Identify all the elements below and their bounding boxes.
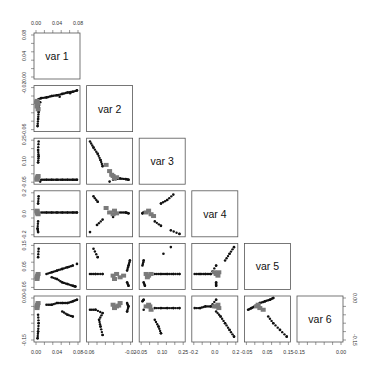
tick-label: 0.00 <box>336 349 346 355</box>
tick-label: -0.05 <box>21 281 27 293</box>
scatter-panel-5-3 <box>192 296 238 342</box>
variable-label: var 2 <box>98 103 122 115</box>
tick-label: -0.05 <box>240 349 252 355</box>
variable-label: var 3 <box>151 155 175 167</box>
tick-label: 0.00 <box>31 20 41 26</box>
tick-label: 0.15 <box>283 349 293 355</box>
scatter-panel-5-0 <box>34 296 80 342</box>
variable-label: var 4 <box>203 208 227 220</box>
left-axis-3: -0.050.100.25 <box>21 135 34 188</box>
diagonal-panel-5: var 5 <box>244 243 290 289</box>
scatter-panel-5-1 <box>87 296 133 342</box>
tick-label: 0.0 <box>21 210 27 217</box>
tick-label: 0.04 <box>21 51 27 61</box>
right-axis-6: -0.150.00 <box>343 293 358 346</box>
tick-label: 0.25 <box>21 135 27 145</box>
variable-label: var 1 <box>45 50 69 62</box>
tick-label: -0.2 <box>21 230 27 239</box>
tick-label: 0.0 <box>211 349 218 355</box>
scatter-panel-5-4 <box>244 296 290 342</box>
left-axis-2: -0.06-0.02 <box>21 82 34 136</box>
scatter-panel-3-2 <box>139 191 185 237</box>
scatter-panel-2-0 <box>34 138 80 184</box>
tick-label: -0.15 <box>21 334 27 346</box>
left-axis-5: -0.050.050.15 <box>21 240 34 293</box>
tick-label: -0.05 <box>21 176 27 188</box>
scatter-panel-3-1 <box>87 191 133 237</box>
tick-label: -0.15 <box>352 334 358 346</box>
tick-label: 0.00 <box>352 293 358 303</box>
tick-label: -0.2 <box>189 349 198 355</box>
tick-label: 0.15 <box>21 240 27 250</box>
tick-label: 0.05 <box>21 261 27 271</box>
diagonal-panel-1: var 1 <box>34 33 80 79</box>
scatter-panel-1-0 <box>34 86 80 132</box>
tick-label: 0.00 <box>21 293 27 303</box>
bottom-axis-6: -0.150.00 <box>293 342 346 355</box>
tick-label: 0.10 <box>21 156 27 166</box>
left-axis-4: -0.20.00.2 <box>21 189 34 239</box>
top-axis-1: 0.000.040.08 <box>31 20 83 33</box>
tick-label: 0.04 <box>52 349 62 355</box>
tick-label: -0.06 <box>83 349 95 355</box>
left-axis-6: -0.150.00 <box>21 293 34 346</box>
variable-label: var 5 <box>256 260 280 272</box>
diagonal-panel-6: var 6 <box>297 296 343 342</box>
tick-label: 0.08 <box>73 349 83 355</box>
tick-label: 0.05 <box>262 349 272 355</box>
bottom-axis-1: 0.000.040.08 <box>31 342 83 355</box>
tick-label: 0.2 <box>232 349 239 355</box>
pairs-plot: var 1var 2var 3var 4var 5var 60.000.040.… <box>0 0 373 387</box>
tick-label: -0.02 <box>21 82 27 94</box>
tick-label: 0.08 <box>73 20 83 26</box>
bottom-axis-4: -0.20.00.2 <box>189 342 239 355</box>
scatter-panel-4-2 <box>139 243 185 289</box>
scatter-panel-4-3 <box>192 243 238 289</box>
tick-label: 0.10 <box>157 349 167 355</box>
scatter-panel-4-1 <box>87 243 133 289</box>
tick-label: 0.25 <box>178 349 188 355</box>
bottom-axis-5: -0.050.050.15 <box>240 342 293 355</box>
tick-label: 0.08 <box>21 30 27 40</box>
tick-label: 0.04 <box>52 20 62 26</box>
scatter-panel-5-2 <box>139 296 185 342</box>
scatter-panel-2-1 <box>87 138 133 184</box>
scatter-panel-3-0 <box>34 191 80 237</box>
left-axis-1: 0.000.040.08 <box>21 30 34 82</box>
bottom-axis-3: -0.050.100.25 <box>135 342 188 355</box>
tick-label: 0.2 <box>21 189 27 196</box>
variable-label: var 6 <box>308 313 332 325</box>
tick-label: -0.05 <box>135 349 147 355</box>
bottom-axis-2: -0.06-0.02 <box>83 342 137 355</box>
scatter-panel-4-0 <box>34 243 80 289</box>
diagonal-panel-4: var 4 <box>192 191 238 237</box>
tick-label: 0.00 <box>21 72 27 82</box>
tick-label: -0.15 <box>293 349 305 355</box>
tick-label: -0.06 <box>21 124 27 136</box>
diagonal-panel-3: var 3 <box>139 138 185 184</box>
diagonal-panel-2: var 2 <box>87 86 133 132</box>
tick-label: 0.00 <box>31 349 41 355</box>
